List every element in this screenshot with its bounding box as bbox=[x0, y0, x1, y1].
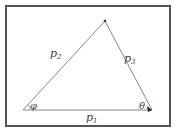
edge-p2 bbox=[23, 21, 105, 110]
angle-theta: θ bbox=[139, 100, 145, 111]
label-p3: p3 bbox=[124, 52, 136, 66]
triangle-diagram: p2 p3 p1 φ θ bbox=[0, 0, 179, 135]
angle-phi: φ bbox=[30, 100, 37, 111]
edge-p3 bbox=[105, 21, 152, 110]
vertex-top-dot bbox=[104, 20, 107, 23]
label-p2: p2 bbox=[50, 47, 62, 61]
label-p1: p1 bbox=[86, 111, 98, 125]
